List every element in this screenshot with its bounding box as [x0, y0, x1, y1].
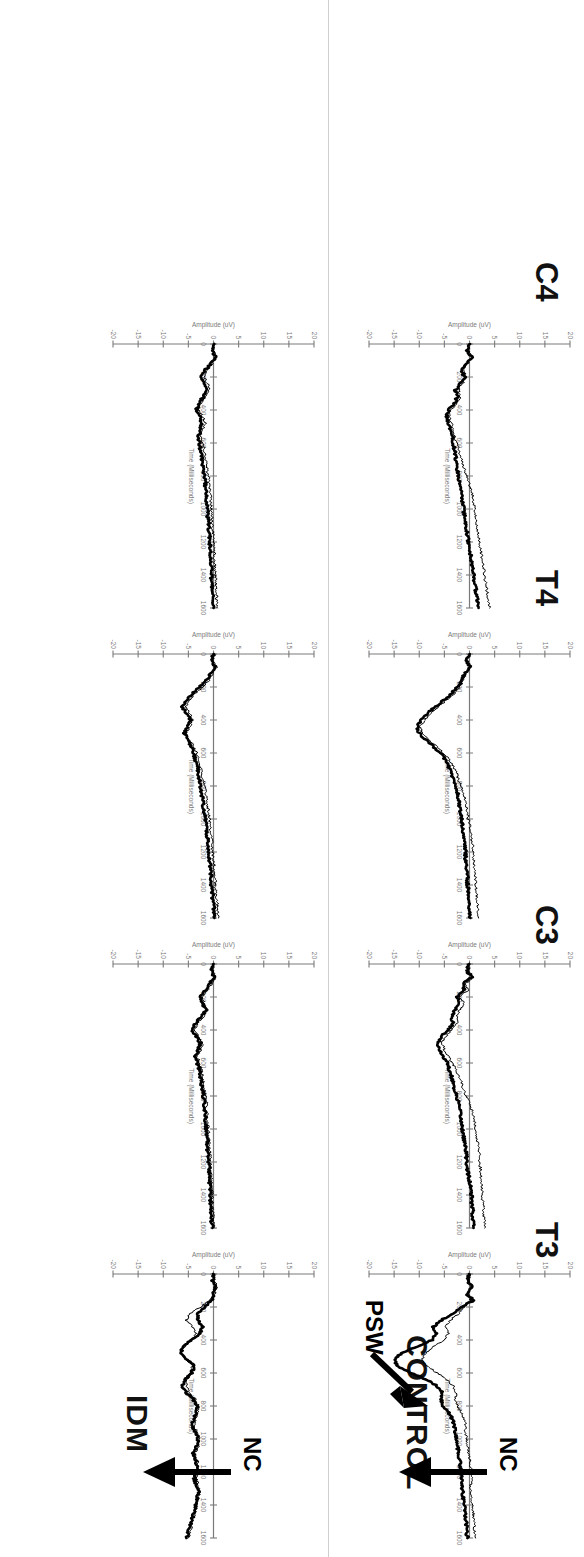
svg-text:10: 10 [516, 1262, 523, 1270]
waveform-plot: 02004006008001000120014001600Time (Milli… [79, 1248, 322, 1548]
psw-annotation-label: PSW [360, 1300, 388, 1355]
psw-annotation-arrow [368, 1350, 434, 1420]
svg-text:-5: -5 [441, 953, 448, 959]
svg-text:400: 400 [200, 1335, 207, 1346]
waveform-plot: 02004006008001000120014001600Time (Milli… [79, 938, 322, 1238]
svg-text:10: 10 [260, 332, 267, 340]
svg-text:15: 15 [286, 332, 293, 340]
svg-text:1400: 1400 [456, 568, 463, 583]
y-axis-label: Amplitude (uV) [192, 321, 235, 329]
svg-text:1000: 1000 [200, 1432, 207, 1447]
svg-text:-20: -20 [110, 330, 117, 340]
svg-text:1600: 1600 [200, 1531, 207, 1546]
svg-text:-10: -10 [160, 330, 167, 340]
panel-idm-t3: 02004006008001000120014001600Time (Milli… [79, 318, 322, 618]
svg-text:-20: -20 [366, 950, 373, 960]
nc-annotation-label-idm: NC [238, 1437, 266, 1472]
svg-text:-10: -10 [160, 950, 167, 960]
row-divider [328, 0, 329, 1557]
svg-text:1400: 1400 [200, 1188, 207, 1203]
panel-idm-c4: 02004006008001000120014001600Time (Milli… [79, 1248, 322, 1548]
column-label-c4: C4 [528, 262, 564, 302]
svg-text:1200: 1200 [200, 535, 207, 550]
svg-text:5: 5 [491, 955, 498, 959]
svg-text:600: 600 [456, 1368, 463, 1379]
panel-control-t4: 02004006008001000120014001600Time (Milli… [335, 938, 578, 1238]
svg-text:0: 0 [466, 335, 473, 339]
waveform-plot: 02004006008001000120014001600Time (Milli… [79, 628, 322, 928]
svg-text:10: 10 [516, 642, 523, 650]
svg-text:15: 15 [542, 332, 549, 340]
svg-text:1600: 1600 [456, 1531, 463, 1546]
svg-text:600: 600 [200, 748, 207, 759]
panel-idm-c3: 02004006008001000120014001600Time (Milli… [79, 628, 322, 928]
svg-text:-15: -15 [135, 330, 142, 340]
svg-text:5: 5 [235, 335, 242, 339]
nc-annotation-arrow-control [397, 1452, 489, 1492]
svg-text:-20: -20 [110, 1260, 117, 1270]
waveform-plot: 02004006008001000120014001600Time (Milli… [335, 628, 578, 928]
svg-text:10: 10 [516, 332, 523, 340]
svg-text:1200: 1200 [456, 535, 463, 550]
svg-text:0: 0 [210, 335, 217, 339]
svg-text:10: 10 [260, 1262, 267, 1270]
svg-text:-10: -10 [416, 330, 423, 340]
svg-text:-10: -10 [160, 640, 167, 650]
svg-text:600: 600 [200, 1368, 207, 1379]
nc-annotation-label-control: NC [494, 1437, 522, 1472]
svg-text:0: 0 [466, 955, 473, 959]
svg-text:-5: -5 [185, 1263, 192, 1269]
svg-text:0: 0 [466, 1265, 473, 1269]
svg-text:5: 5 [491, 335, 498, 339]
svg-text:-10: -10 [416, 1260, 423, 1270]
svg-text:-5: -5 [185, 643, 192, 649]
waveform-plot: 02004006008001000120014001600Time (Milli… [79, 318, 322, 618]
panel-idm-t4: 02004006008001000120014001600Time (Milli… [79, 938, 322, 1238]
svg-text:-5: -5 [441, 333, 448, 339]
svg-text:15: 15 [542, 1262, 549, 1270]
svg-text:-15: -15 [391, 640, 398, 650]
svg-text:5: 5 [235, 955, 242, 959]
y-axis-label: Amplitude (uV) [192, 941, 235, 949]
svg-text:1600: 1600 [200, 911, 207, 926]
svg-text:1200: 1200 [456, 845, 463, 860]
svg-text:400: 400 [456, 405, 463, 416]
svg-text:400: 400 [456, 1025, 463, 1036]
svg-text:-5: -5 [185, 953, 192, 959]
svg-text:-20: -20 [110, 640, 117, 650]
svg-text:10: 10 [260, 642, 267, 650]
svg-text:600: 600 [456, 1058, 463, 1069]
svg-text:-15: -15 [391, 330, 398, 340]
svg-text:20: 20 [311, 1262, 318, 1270]
svg-text:400: 400 [200, 715, 207, 726]
x-axis-label: Time (Milliseconds) [187, 1068, 195, 1124]
svg-text:5: 5 [491, 645, 498, 649]
svg-text:5: 5 [235, 1265, 242, 1269]
svg-text:15: 15 [542, 642, 549, 650]
svg-text:-20: -20 [366, 330, 373, 340]
svg-text:-10: -10 [160, 1260, 167, 1270]
svg-text:-20: -20 [366, 640, 373, 650]
y-axis-label: Amplitude (uV) [448, 1251, 491, 1259]
svg-text:-10: -10 [416, 640, 423, 650]
svg-text:0: 0 [210, 955, 217, 959]
svg-text:20: 20 [311, 642, 318, 650]
svg-text:1400: 1400 [456, 1188, 463, 1203]
svg-text:-15: -15 [135, 1260, 142, 1270]
svg-text:20: 20 [311, 952, 318, 960]
svg-text:400: 400 [200, 1025, 207, 1036]
svg-text:-5: -5 [441, 1263, 448, 1269]
nc-annotation-arrow-idm [141, 1452, 233, 1492]
svg-text:1400: 1400 [200, 878, 207, 893]
svg-text:0: 0 [466, 645, 473, 649]
svg-text:1400: 1400 [200, 568, 207, 583]
svg-text:20: 20 [567, 332, 574, 340]
svg-text:15: 15 [286, 1262, 293, 1270]
svg-text:-5: -5 [441, 643, 448, 649]
x-axis-label: Time (Milliseconds) [443, 1068, 451, 1124]
svg-text:-15: -15 [135, 640, 142, 650]
svg-text:5: 5 [491, 1265, 498, 1269]
svg-text:1400: 1400 [200, 1498, 207, 1513]
x-axis-label: Time (Milliseconds) [443, 448, 451, 504]
svg-text:400: 400 [200, 405, 207, 416]
